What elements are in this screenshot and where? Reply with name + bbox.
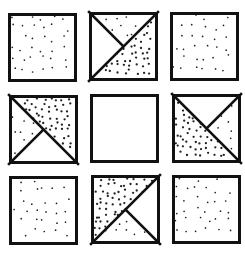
lower-left-half-dense-region [175,102,225,157]
pattern-matrix [0,0,245,253]
top-left-spoke-line [89,12,124,47]
split-tile-graphic [91,175,160,244]
square-sparse-region [11,15,69,72]
tile-r1-c2 [89,12,158,81]
tile-r3-c2 [91,175,160,244]
left-triangle-sparse-region [12,108,35,154]
tile-border [92,96,158,162]
bottom-left-spoke-line [9,130,44,165]
square-sparse-region [13,181,70,237]
tile-border [11,178,77,244]
bottom-right-spoke-line [126,210,161,245]
blank-tile-graphic [90,94,159,163]
split-tile-graphic [9,95,78,164]
tile-r1-c1 [8,13,77,82]
tile-r1-c3 [170,12,239,81]
split-tile-graphic [89,12,158,81]
tile-r2-c2 [90,94,159,163]
square-sparse-region [172,14,229,71]
tile-border [174,177,240,243]
sparse-full-tile-graphic [172,175,241,244]
top-triangle-sparse-region [105,16,136,45]
tile-r2-c3 [172,94,241,163]
square-sparse-region [175,178,232,233]
split-tile-graphic [172,94,241,163]
tile-r3-c3 [172,175,241,244]
tile-border [172,14,238,80]
sparse-full-tile-graphic [170,12,239,81]
sparse-full-tile-graphic [9,176,78,245]
tile-r2-c1 [9,95,78,164]
sparse-full-tile-graphic [8,13,77,82]
tile-border [10,15,76,81]
tile-r3-c1 [9,176,78,245]
top-right-spoke-line [207,94,242,129]
